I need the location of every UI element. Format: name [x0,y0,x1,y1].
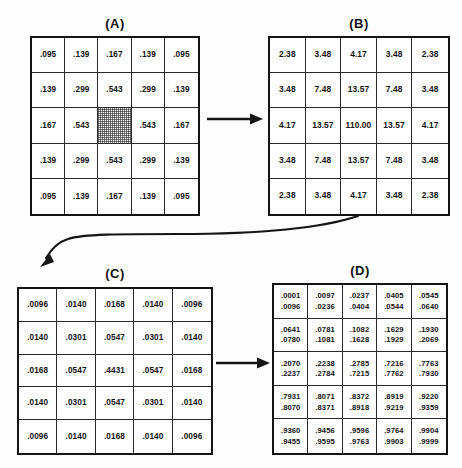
matrix-cell: .0001.0096 [274,285,308,319]
matrix-cell: .0168 [19,355,57,388]
cell-value: 110.00 [346,121,372,131]
cell-value-upper: .9764 [384,426,404,435]
arrow-c-to-d-icon [216,352,270,374]
cell-value-lower: .1628 [350,335,370,344]
matrix-cell: 7.48 [377,73,413,108]
matrix-cell: .0140 [57,420,95,453]
cell-value-lower: .8371 [315,403,335,412]
cell-value: .139 [40,156,56,166]
cell-value-lower: .9219 [384,403,404,412]
cell-value-lower: .9903 [384,437,404,446]
cell-value: .0301 [142,398,163,408]
matrix-cell: .543 [132,108,165,143]
cell-value: .139 [73,192,89,202]
cell-value: .0168 [104,300,125,310]
matrix-cell: 13.57 [341,144,377,179]
cell-value-upper: .2070 [281,359,301,368]
cell-value-lower: .9763 [350,437,370,446]
matrix-cell: 3.48 [412,144,448,179]
cell-value: 7.48 [386,85,403,95]
panel-a-grid: .095.139.167.139.095.139.299.543.299.139… [30,36,200,216]
matrix-cell: 3.48 [270,144,306,179]
matrix-cell: 13.57 [377,108,413,143]
cell-value: .0140 [142,432,163,442]
cell-value-upper: .0405 [384,291,404,300]
matrix-cell: 3.48 [306,38,342,73]
matrix-cell: 110.00 [341,108,377,143]
matrix-cell: .0140 [134,420,172,453]
matrix-cell: .0140 [173,387,211,420]
matrix-cell: 3.48 [412,73,448,108]
matrix-cell: .0641.0780 [274,319,308,353]
matrix-cell-shaded [98,108,131,143]
cell-value-lower: .9595 [315,437,335,446]
cell-value-upper: .9596 [350,426,370,435]
matrix-cell: .299 [132,73,165,108]
matrix-cell: .167 [98,38,131,73]
cell-value-upper: .8071 [315,392,335,401]
matrix-cell: .139 [132,38,165,73]
matrix-cell: 3.48 [270,73,306,108]
cell-value: 2.38 [279,50,296,60]
cell-value: .095 [40,192,56,202]
cell-value: .095 [40,50,56,60]
matrix-cell: .0140 [57,289,95,322]
cell-value: .139 [140,50,156,60]
cell-value: 2.38 [422,50,439,60]
cell-value: 3.48 [422,85,439,95]
cell-value: .139 [40,85,56,95]
matrix-cell: .0301 [134,322,172,355]
matrix-cell: .9596.9763 [343,419,377,453]
matrix-cell: .2070.2237 [274,352,308,386]
cell-value: .299 [140,85,156,95]
matrix-cell: .139 [65,38,98,73]
arrow-a-to-b-icon [207,108,263,130]
cell-value: .0168 [104,432,125,442]
cell-value: .0096 [181,300,202,310]
panel-d: (D) .0001.0096.0097.0236.0237.0404.0405.… [272,263,448,456]
matrix-cell: .0140 [19,387,57,420]
matrix-cell: .543 [98,73,131,108]
cell-value-lower: .9455 [281,437,301,446]
panel-d-grid: .0001.0096.0097.0236.0237.0404.0405.0544… [272,283,448,455]
cell-value-lower: .0404 [350,302,370,311]
matrix-cell: .1629.1929 [377,319,411,353]
cell-value: 13.57 [348,156,369,166]
cell-value-lower: .2069 [419,335,439,344]
cell-value-lower: .0640 [419,302,439,311]
cell-value: .0547 [66,366,87,376]
cell-value-upper: .9360 [281,426,301,435]
matrix-cell: 3.48 [377,38,413,73]
matrix-cell: .0301 [57,387,95,420]
cell-value: .167 [106,50,122,60]
cell-value: .0140 [181,333,202,343]
cell-value-upper: .9456 [315,426,335,435]
cell-value: .0140 [142,300,163,310]
matrix-cell: .9360.9455 [274,419,308,453]
matrix-cell: .167 [165,108,198,143]
cell-value: .139 [140,192,156,202]
matrix-cell: 2.38 [270,38,306,73]
cell-value: .139 [173,156,189,166]
cell-value: 7.48 [315,156,332,166]
cell-value: .0096 [27,432,48,442]
cell-value: 3.48 [279,85,296,95]
cell-value-upper: .1930 [419,325,439,334]
matrix-cell: .167 [98,179,131,214]
cell-value: 4.17 [350,191,367,201]
cell-value-lower: .7762 [384,369,404,378]
cell-value-lower: .9359 [419,403,439,412]
cell-value: 3.48 [279,156,296,166]
cell-value-lower: .8070 [281,403,301,412]
cell-value: .139 [73,50,89,60]
panel-a-label: (A) [30,16,200,31]
panel-a: (A) .095.139.167.139.095.139.299.543.299… [30,16,200,216]
cell-value-upper: .2238 [315,359,335,368]
cell-value: .0168 [27,366,48,376]
matrix-cell: .2238.2784 [308,352,342,386]
matrix-cell: .0168 [96,289,134,322]
cell-value-upper: .0237 [350,291,370,300]
cell-value: 3.48 [422,156,439,166]
matrix-cell: .8071.8371 [308,386,342,420]
cell-value-upper: .0097 [315,291,335,300]
